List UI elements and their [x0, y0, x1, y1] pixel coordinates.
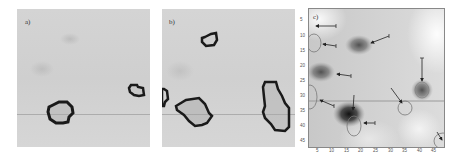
y-tick: 45	[300, 138, 305, 143]
heatmap-spot	[333, 101, 365, 127]
y-tick: 5	[300, 17, 303, 22]
region-outlines-b	[162, 9, 295, 147]
x-tick: 25	[373, 148, 378, 153]
y-tick: 40	[300, 123, 305, 128]
x-tick: 10	[329, 148, 334, 153]
x-tick: 35	[402, 148, 407, 153]
heatmap-annotations	[309, 9, 444, 147]
heatmap-spot	[309, 62, 335, 82]
x-tick: 45	[431, 148, 436, 153]
y-tick: 30	[300, 93, 305, 98]
x-tick: 15	[344, 148, 349, 153]
y-tick: 25	[300, 78, 305, 83]
x-tick: 5	[316, 148, 319, 153]
heatmap-spot	[345, 35, 373, 55]
y-tick: 35	[300, 108, 305, 113]
panel-c-heatmap: c)	[308, 8, 445, 148]
x-tick: 40	[417, 148, 422, 153]
y-tick: 15	[300, 48, 305, 53]
region-outlines-a	[17, 9, 150, 147]
x-tick: 20	[358, 148, 363, 153]
panel-b: b)	[162, 9, 295, 147]
x-tick: 30	[388, 148, 393, 153]
panel-a: a)	[17, 9, 150, 147]
y-tick: 20	[300, 63, 305, 68]
y-tick: 10	[300, 33, 305, 38]
